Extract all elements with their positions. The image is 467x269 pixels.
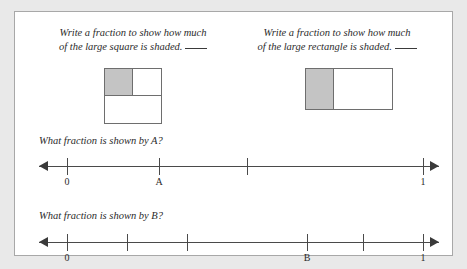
tick-b-2	[187, 234, 188, 251]
answer-blank-rectangle[interactable]	[395, 48, 417, 49]
large-square-figure	[104, 68, 162, 124]
number-line-b-axis	[39, 242, 439, 243]
tick-b-4	[363, 234, 364, 251]
tick-b-3	[307, 234, 308, 251]
square-quadrant-top-left-shaded	[105, 69, 133, 96]
tick-label-a-1: A	[155, 176, 162, 187]
arrow-left-icon	[39, 237, 48, 247]
arrow-right-icon	[430, 161, 439, 171]
prompt-square: Write a fraction to show how much of the…	[33, 26, 233, 53]
tick-label-a-3: 1	[421, 176, 426, 187]
prompt-rectangle-line2: of the large rectangle is shaded.	[257, 41, 392, 52]
prompt-rectangle: Write a fraction to show how much of the…	[237, 26, 437, 53]
question-a: What fraction is shown by A?	[39, 134, 299, 148]
tick-a-2	[247, 158, 248, 175]
arrow-left-icon	[39, 161, 48, 171]
square-quadrant-top-right	[133, 69, 161, 96]
worksheet-page: Write a fraction to show how much of the…	[14, 11, 453, 256]
tick-label-b-3: B	[304, 252, 311, 263]
rectangle-left-part-shaded	[306, 69, 334, 109]
arrow-right-icon	[430, 237, 439, 247]
tick-a-0	[67, 158, 68, 175]
square-bottom-half	[105, 96, 161, 123]
tick-b-1	[127, 234, 128, 251]
tick-b-5	[423, 234, 424, 251]
tick-a-1	[159, 158, 160, 175]
answer-blank-square[interactable]	[185, 48, 207, 49]
number-line-a-axis	[39, 166, 439, 167]
tick-label-b-5: 1	[421, 252, 426, 263]
large-rectangle-figure	[305, 68, 393, 110]
tick-b-0	[67, 234, 68, 251]
prompt-square-line2: of the large square is shaded.	[59, 41, 182, 52]
prompt-rectangle-line1: Write a fraction to show how much	[264, 27, 411, 38]
tick-label-b-0: 0	[65, 252, 70, 263]
number-line-b: 0 B 1	[39, 230, 439, 264]
rectangle-right-part	[334, 69, 392, 109]
number-line-a: 0 A 1	[39, 154, 439, 188]
prompt-square-line1: Write a fraction to show how much	[60, 27, 207, 38]
tick-label-a-0: 0	[65, 176, 70, 187]
tick-a-3	[423, 158, 424, 175]
question-b: What fraction is shown by B?	[39, 209, 299, 223]
